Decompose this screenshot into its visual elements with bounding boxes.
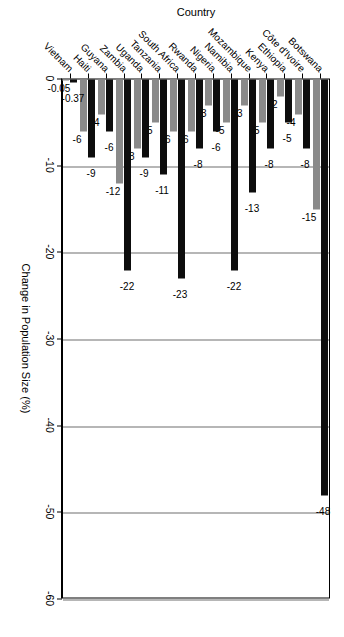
- bar-value-label: -8: [301, 159, 310, 169]
- y-tick: [320, 73, 321, 78]
- x-tick-label: -10: [44, 145, 55, 185]
- bar-value-label: -23: [173, 289, 187, 299]
- grid-line: [63, 599, 329, 600]
- bar-black: [178, 79, 185, 278]
- bar-gray: [259, 79, 266, 122]
- bar-black: [160, 79, 167, 174]
- bar-black: [142, 79, 149, 157]
- bar-gray: [80, 79, 87, 131]
- bar-group: [97, 79, 115, 597]
- bar-black: [231, 79, 238, 270]
- bar-group: [222, 79, 240, 597]
- bar-group: [293, 79, 311, 597]
- bar-value-label: -8: [194, 159, 203, 169]
- bar-gray: [98, 79, 105, 114]
- bar-gray: [170, 79, 177, 131]
- bar-value-label: -48: [316, 506, 330, 516]
- bar-gray: [205, 79, 212, 105]
- bar-value-label: -6: [211, 142, 220, 152]
- x-tick-label: -60: [44, 578, 55, 618]
- bar-group: [61, 79, 79, 597]
- bar-black: [70, 79, 77, 82]
- y-tick: [141, 73, 142, 78]
- y-tick: [177, 73, 178, 78]
- bar-black: [267, 79, 274, 148]
- bar-black: [106, 79, 113, 131]
- bar-group: [275, 79, 293, 597]
- bar-value-label: -22: [227, 281, 241, 291]
- bar-group: [132, 79, 150, 597]
- bar-black: [124, 79, 131, 270]
- bar-black: [321, 79, 328, 495]
- y-tick: [88, 73, 89, 78]
- bar-group: [168, 79, 186, 597]
- y-tick: [249, 73, 250, 78]
- bar-gray: [152, 79, 159, 122]
- x-tick: [57, 251, 62, 252]
- bar-value-label: -11: [155, 185, 169, 195]
- bar-group: [258, 79, 276, 597]
- y-tick: [302, 73, 303, 78]
- bar-value-label: -5: [283, 133, 292, 143]
- y-tick: [106, 73, 107, 78]
- x-tick-label: 0: [44, 58, 55, 98]
- bar-gray: [295, 79, 302, 114]
- bar-gray: [188, 79, 195, 131]
- x-tick: [57, 425, 62, 426]
- bar-value-label: -13: [244, 203, 258, 213]
- bar-black: [303, 79, 310, 148]
- x-tick-label: -30: [44, 318, 55, 358]
- x-tick-label: -20: [44, 231, 55, 271]
- y-tick: [159, 73, 160, 78]
- x-tick: [57, 338, 62, 339]
- bar-group: [186, 79, 204, 597]
- y-tick: [195, 73, 196, 78]
- bar-gray: [241, 79, 248, 105]
- bar-gray: [116, 79, 123, 183]
- bar-gray: [313, 79, 320, 209]
- y-tick: [266, 73, 267, 78]
- x-tick: [57, 511, 62, 512]
- x-axis-title: Change in Population Size (%): [20, 78, 32, 598]
- bar-value-label: -8: [265, 159, 274, 169]
- rotated-chart-wrapper: -48-15-8-4-5-2-8-5-13-3-22-5-6-3-8-6-23-…: [0, 0, 344, 637]
- bar-black: [249, 79, 256, 192]
- bar-gray: [134, 79, 141, 148]
- bar-group: [115, 79, 133, 597]
- bar-group: [150, 79, 168, 597]
- x-tick: [57, 78, 62, 79]
- bar-gray: [277, 79, 284, 96]
- bar-group: [311, 79, 329, 597]
- bar-gray: [62, 79, 69, 80]
- bar-value-label: -9: [140, 168, 149, 178]
- bar-black: [285, 79, 292, 122]
- bar-value-label: -9: [86, 168, 95, 178]
- y-tick: [70, 73, 71, 78]
- bar-black: [213, 79, 220, 131]
- bar-group: [240, 79, 258, 597]
- y-tick: [124, 73, 125, 78]
- bar-group: [79, 79, 97, 597]
- x-tick: [57, 165, 62, 166]
- bar-value-label: -0.37: [62, 93, 85, 103]
- bar-chart-figure: -48-15-8-4-5-2-8-5-13-3-22-5-6-3-8-6-23-…: [0, 0, 344, 637]
- plot-area: -48-15-8-4-5-2-8-5-13-3-22-5-6-3-8-6-23-…: [62, 78, 330, 598]
- y-tick: [284, 73, 285, 78]
- x-tick-label: -40: [44, 405, 55, 445]
- bar-black: [196, 79, 203, 148]
- bar-black: [88, 79, 95, 157]
- bar-value-label: -22: [119, 281, 133, 291]
- y-axis-title: Country: [177, 5, 216, 17]
- bar-gray: [223, 79, 230, 122]
- bar-value-label: -6: [104, 142, 113, 152]
- x-tick: [57, 598, 62, 599]
- y-tick: [213, 73, 214, 78]
- bar-group: [204, 79, 222, 597]
- x-tick-label: -50: [44, 491, 55, 531]
- y-tick: [231, 73, 232, 78]
